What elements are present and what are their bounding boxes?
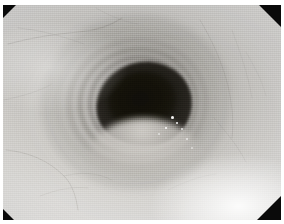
sensor-grain-texture — [0, 0, 284, 224]
endoscopy-image-viewport: Endoscopic view of the esophageal lumen … — [0, 0, 284, 224]
